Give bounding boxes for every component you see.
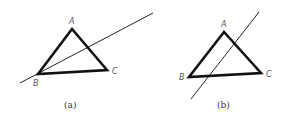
figure-b-label-A: A bbox=[220, 20, 226, 29]
diagram-canvas: A B C (a) A B C (b) bbox=[0, 0, 285, 117]
figure-a-label-A: A bbox=[68, 17, 74, 26]
figure-b-label-C: C bbox=[266, 70, 272, 79]
figure-b-label-B: B bbox=[179, 73, 185, 82]
figure-a-triangle bbox=[38, 29, 107, 74]
figure-a: A B C (a) bbox=[20, 13, 153, 110]
figure-b: A B C (b) bbox=[179, 12, 272, 110]
figure-b-caption: (b) bbox=[217, 100, 230, 110]
figure-a-caption: (a) bbox=[64, 100, 76, 110]
figure-a-label-C: C bbox=[112, 67, 118, 76]
figure-a-label-B: B bbox=[33, 79, 39, 88]
figure-b-triangle bbox=[189, 32, 261, 77]
